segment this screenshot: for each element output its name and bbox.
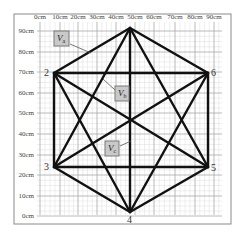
x-axis-labels: 0cm10cm20cm30cm40cm50cm60cm70cm80cm90cm bbox=[34, 13, 222, 21]
y-tick-label: 20cm bbox=[18, 171, 34, 179]
y-tick-label: 30cm bbox=[18, 151, 34, 159]
vertex-label-4: 4 bbox=[127, 214, 132, 225]
diagram-frame bbox=[14, 14, 231, 224]
y-tick-label: 0cm bbox=[22, 212, 35, 220]
y-tick-label: 10cm bbox=[18, 192, 34, 200]
x-tick-label: 10cm bbox=[52, 13, 68, 21]
x-tick-label: 70cm bbox=[167, 13, 183, 21]
callout-subscript: c bbox=[114, 148, 117, 154]
x-tick-label: 90cm bbox=[206, 13, 222, 21]
callout-subscript: b bbox=[124, 93, 127, 99]
x-tick-label: 20cm bbox=[70, 13, 86, 21]
y-tick-label: 80cm bbox=[18, 48, 34, 56]
x-tick-label: 40cm bbox=[108, 13, 124, 21]
y-tick-label: 60cm bbox=[18, 89, 34, 97]
vertex-label-6: 6 bbox=[211, 67, 216, 78]
vertex-label-2: 2 bbox=[44, 67, 49, 78]
hexagon-complete-graph-diagram: 0cm10cm20cm30cm40cm50cm60cm70cm80cm90cm … bbox=[0, 0, 243, 233]
y-tick-label: 40cm bbox=[18, 130, 34, 138]
y-tick-label: 50cm bbox=[18, 109, 34, 117]
x-tick-label: 30cm bbox=[89, 13, 105, 21]
x-tick-label: 80cm bbox=[187, 13, 203, 21]
x-tick-label: 0cm bbox=[34, 13, 47, 21]
y-tick-label: 70cm bbox=[18, 68, 34, 76]
vertex-label-3: 3 bbox=[44, 161, 49, 172]
x-tick-label: 60cm bbox=[146, 13, 162, 21]
vertex-label-5: 5 bbox=[211, 162, 216, 173]
y-tick-label: 90cm bbox=[18, 27, 34, 35]
callout-subscript: a bbox=[63, 38, 66, 44]
x-tick-label: 50cm bbox=[127, 13, 143, 21]
